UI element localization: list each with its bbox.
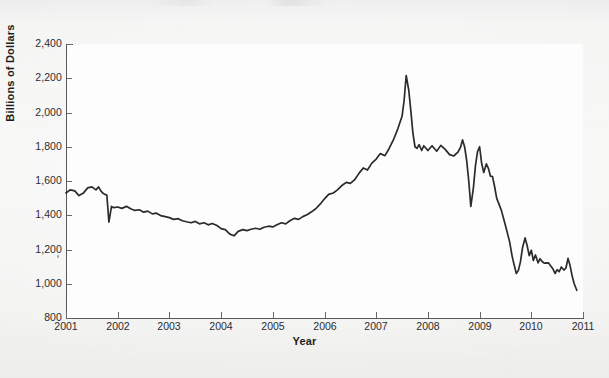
series-layer — [0, 0, 609, 378]
x-axis-title: Year — [0, 335, 609, 347]
line-chart: 8001,0001,2001,4001,6001,8002,0002,2002,… — [0, 0, 609, 378]
data-series-line — [66, 76, 577, 291]
y-axis-title: Billions of Dollars — [4, 8, 16, 138]
